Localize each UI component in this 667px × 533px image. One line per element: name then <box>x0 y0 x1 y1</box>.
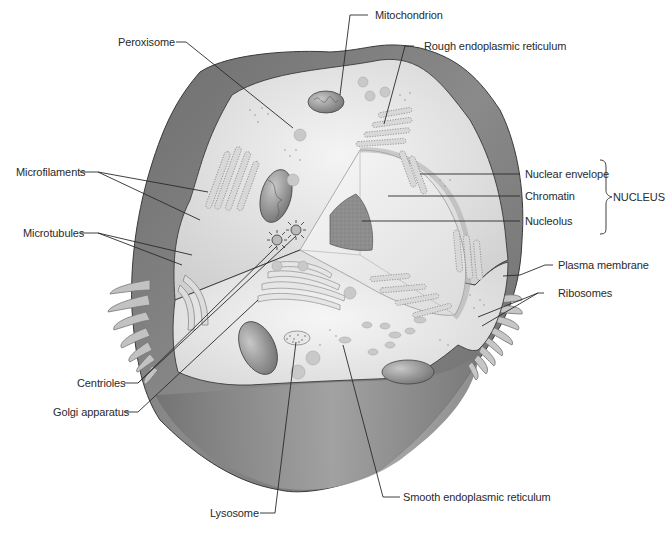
label-peroxisome: Peroxisome <box>118 36 175 48</box>
label-golgi-apparatus: Golgi apparatus <box>53 406 129 418</box>
label-nucleus: NUCLEUS <box>613 191 665 203</box>
mitochondrion-top <box>308 91 344 113</box>
label-smooth-er: Smooth endoplasmic reticulum <box>403 491 551 503</box>
label-ribosomes: Ribosomes <box>558 287 612 299</box>
lysosome-shape <box>284 331 310 345</box>
label-mitochondrion: Mitochondrion <box>375 9 443 21</box>
mitochondrion-floor-right <box>382 360 434 384</box>
label-microfilaments: Microfilaments <box>16 166 86 178</box>
label-chromatin: Chromatin <box>525 190 575 202</box>
label-nuclear-envelope: Nuclear envelope <box>525 168 609 180</box>
label-microtubules: Microtubules <box>23 227 84 239</box>
label-rough-er: Rough endoplasmic reticulum <box>424 40 566 52</box>
label-plasma-membrane: Plasma membrane <box>558 259 649 271</box>
label-lysosome: Lysosome <box>210 507 259 519</box>
label-centrioles: Centrioles <box>77 377 126 389</box>
label-nucleolus: Nucleolus <box>525 215 572 227</box>
